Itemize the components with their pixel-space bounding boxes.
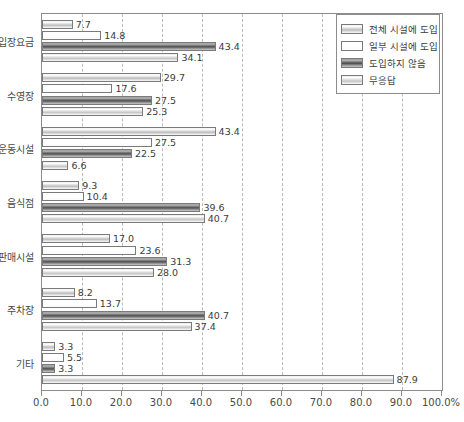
bar-row: 40.7	[42, 214, 442, 223]
legend-item[interactable]: 전체 시설에 도입	[341, 20, 434, 37]
bar-row: 6.6	[42, 161, 442, 170]
bar-row: 3.3	[42, 342, 442, 351]
legend: 전체 시설에 도입일부 시설에 도입도입하지 않음무응답	[336, 14, 440, 94]
bar	[42, 353, 64, 362]
x-tick	[281, 391, 282, 396]
legend-swatch	[341, 41, 363, 51]
bar-row: 31.3	[42, 257, 442, 266]
x-tick-label: 80.0	[350, 397, 372, 408]
bar	[42, 375, 394, 384]
bar	[42, 73, 161, 82]
legend-swatch	[341, 58, 363, 68]
bar-value-label: 9.3	[82, 181, 97, 190]
bar-value-label: 14.8	[104, 31, 125, 40]
bar	[42, 42, 216, 51]
bar-value-label: 34.1	[181, 53, 202, 62]
x-tick-label: 20.0	[110, 397, 132, 408]
x-tick-label: 10.0	[70, 397, 92, 408]
bar-row: 10.4	[42, 192, 442, 201]
bar-row: 37.4	[42, 322, 442, 331]
legend-item[interactable]: 도입하지 않음	[341, 54, 434, 71]
bar-row: 43.4	[42, 127, 442, 136]
bar-row: 22.5	[42, 149, 442, 158]
bar	[42, 299, 97, 308]
bar-row: 9.3	[42, 181, 442, 190]
bar-row: 8.2	[42, 288, 442, 297]
legend-label: 무응답	[369, 73, 396, 87]
bar	[42, 342, 55, 351]
bar-row: 3.3	[42, 364, 442, 373]
category-label: 수영장	[7, 88, 34, 103]
bar	[42, 20, 73, 29]
x-tick	[81, 391, 82, 396]
bar-value-label: 31.3	[170, 257, 191, 266]
x-tick	[441, 391, 442, 396]
bar	[42, 203, 200, 212]
x-tick-label: 40.0	[190, 397, 212, 408]
bar	[42, 161, 68, 170]
x-tick-label: 100.0%	[422, 397, 460, 408]
category-label: 주차장	[7, 302, 34, 317]
x-tick	[241, 391, 242, 396]
x-tick	[161, 391, 162, 396]
bar-group: 9.310.439.640.7	[42, 175, 442, 229]
bar-row: 5.5	[42, 353, 442, 362]
bar-group: 17.023.631.328.0	[42, 229, 442, 283]
bar	[42, 107, 143, 116]
bar	[42, 364, 55, 373]
x-tick-label: 0.0	[33, 397, 49, 408]
bar	[42, 127, 216, 136]
bar-value-label: 40.7	[208, 214, 229, 223]
bar	[42, 234, 110, 243]
legend-item[interactable]: 무응답	[341, 71, 434, 88]
bar-value-label: 43.4	[219, 42, 240, 51]
bar-value-label: 13.7	[100, 299, 121, 308]
x-tick	[121, 391, 122, 396]
bar-value-label: 27.5	[155, 138, 176, 147]
bar-row: 23.6	[42, 246, 442, 255]
bar-group: 3.35.53.387.9	[42, 336, 442, 390]
x-tick	[401, 391, 402, 396]
bar-row: 25.3	[42, 107, 442, 116]
category-axis: 입장요금수영장운동시설음식점판매시설주차장기타	[0, 13, 38, 391]
bar-value-label: 39.6	[203, 203, 224, 212]
x-axis-labels: 0.010.020.030.040.050.060.070.080.090.01…	[0, 397, 464, 417]
bar-value-label: 10.4	[87, 192, 108, 201]
bar-value-label: 43.4	[219, 127, 240, 136]
bar-row: 28.0	[42, 268, 442, 277]
x-tick-label: 50.0	[230, 397, 252, 408]
bar-value-label: 27.5	[155, 96, 176, 105]
bar-value-label: 8.2	[78, 288, 93, 297]
bar-value-label: 87.9	[397, 375, 418, 384]
bar	[42, 192, 84, 201]
x-tick	[41, 391, 42, 396]
bar	[42, 214, 205, 223]
bar-value-label: 37.4	[195, 322, 216, 331]
legend-item[interactable]: 일부 시설에 도입	[341, 37, 434, 54]
bar	[42, 268, 154, 277]
bar-value-label: 25.3	[146, 107, 167, 116]
bar	[42, 257, 167, 266]
category-label: 판매시설	[0, 249, 34, 264]
bar-value-label: 40.7	[208, 311, 229, 320]
bar-chart: 입장요금수영장운동시설음식점판매시설주차장기타 7.714.843.434.12…	[0, 0, 464, 422]
bar-value-label: 7.7	[76, 20, 91, 29]
bar	[42, 53, 178, 62]
bar-group: 43.427.522.56.6	[42, 121, 442, 175]
bar	[42, 149, 132, 158]
category-label: 운동시설	[0, 141, 34, 156]
bar	[42, 311, 205, 320]
bar-value-label: 17.6	[115, 84, 136, 93]
legend-swatch	[341, 75, 363, 85]
x-tick-label: 60.0	[270, 397, 292, 408]
bar-group: 8.213.740.737.4	[42, 283, 442, 337]
bar-row: 87.9	[42, 375, 442, 384]
category-label: 입장요금	[0, 34, 34, 49]
bar-value-label: 23.6	[139, 246, 160, 255]
bar-value-label: 5.5	[67, 353, 82, 362]
bar-value-label: 3.3	[58, 364, 73, 373]
x-tick	[361, 391, 362, 396]
category-label: 기타	[16, 356, 34, 371]
x-tick	[321, 391, 322, 396]
bar-value-label: 22.5	[135, 149, 156, 158]
